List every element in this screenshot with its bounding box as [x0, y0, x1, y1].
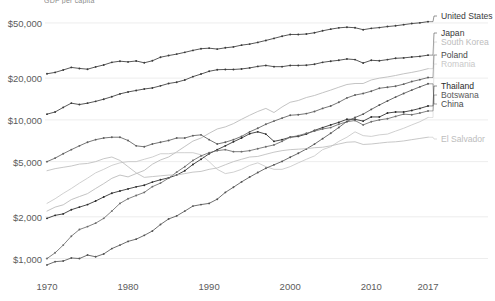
y-axis-tick-label: $10,000: [0, 114, 42, 125]
series-label-china[interactable]: China: [441, 99, 463, 109]
series-lines: [46, 21, 429, 266]
series-label-south-korea[interactable]: South Korea: [441, 37, 489, 47]
y-axis-tick: $5,000: [0, 162, 46, 173]
y-axis-tick: $10,000: [0, 120, 46, 131]
y-axis-tick-label: $1,000: [0, 253, 42, 264]
y-axis-tick: $1,000: [0, 259, 46, 270]
y-axis-tick: $50,000: [0, 23, 46, 34]
x-axis-tick-label: 1980: [117, 281, 138, 292]
x-axis-tick-label: 2017: [417, 281, 438, 292]
y-axis-tick-label: $5,000: [0, 156, 42, 167]
series-label-united-states[interactable]: United States: [441, 11, 493, 21]
legend-leader-lines: [428, 16, 437, 139]
x-axis-tick-label: 1990: [199, 281, 220, 292]
series-label-el-salvador[interactable]: El Salvador: [441, 134, 485, 144]
x-axis-tick-label: 2000: [280, 281, 301, 292]
line-chart-plot: [0, 0, 495, 301]
x-axis-tick-label: 2010: [361, 281, 382, 292]
series-label-romania[interactable]: Romania: [441, 59, 475, 69]
y-axis-tick: $2,000: [0, 217, 46, 228]
y-axis-tick: $20,000: [0, 78, 46, 89]
y-axis-tick-label: $20,000: [0, 73, 42, 84]
gridlines: [45, 23, 488, 259]
x-axis-tick-label: 1970: [36, 281, 57, 292]
chart-container: GDP per capita $50,000$20,000$10,000$5,0…: [0, 0, 495, 301]
y-axis-tick-label: $2,000: [0, 211, 42, 222]
y-axis-tick-label: $50,000: [0, 17, 42, 28]
